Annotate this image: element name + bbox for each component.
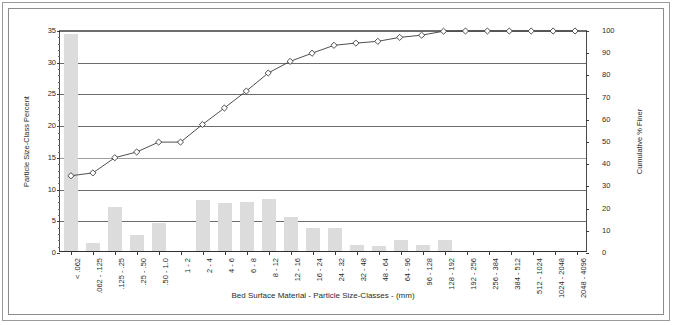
- y-axis-left-tick-label: 20: [48, 122, 56, 130]
- y-axis-right-tick-label: 100: [602, 27, 615, 35]
- y-axis-left-tick-label: 25: [48, 91, 56, 99]
- y-tick-minor: [58, 234, 60, 235]
- x-axis-tick-label: .062 - .125: [96, 258, 104, 294]
- y-tick-minor: [58, 171, 60, 172]
- x-tick: [335, 251, 336, 255]
- y-axis-right-tick-label: 50: [602, 138, 610, 146]
- y-tick-major: [57, 158, 60, 159]
- x-tick: [225, 251, 226, 255]
- y-axis-right-tick-label: 60: [602, 116, 610, 124]
- x-axis-tick-label: 192 - 256: [470, 258, 478, 290]
- x-tick: [401, 251, 402, 255]
- y-tick-minor: [58, 107, 60, 108]
- x-axis-tick-label: 12 - 16: [294, 258, 302, 281]
- y-tick-minor: [58, 56, 60, 57]
- y-tick-major: [57, 221, 60, 222]
- y-tick-major: [57, 190, 60, 191]
- x-axis-tick-label: 512 - 1024: [536, 258, 544, 294]
- y2-tick-major: [586, 75, 589, 76]
- y-tick-minor: [58, 120, 60, 121]
- x-tick: [93, 251, 94, 255]
- x-axis-tick-label: 8 - 12: [272, 258, 280, 277]
- y-axis-right-tick-label: 90: [602, 49, 610, 57]
- y2-tick-major: [586, 142, 589, 143]
- y2-tick-major: [586, 253, 589, 254]
- y-axis-right-tick-label: 80: [602, 72, 610, 80]
- cumulative-line-markers: [68, 28, 578, 179]
- x-tick: [181, 251, 182, 255]
- line-marker: [90, 170, 96, 176]
- y-tick-minor: [58, 114, 60, 115]
- y-tick-minor: [58, 215, 60, 216]
- y-tick-major: [57, 253, 60, 254]
- x-tick: [247, 251, 248, 255]
- x-axis-tick-label: .50 - 1.0: [162, 258, 170, 286]
- x-axis-tick-label: 256 - 384: [492, 258, 500, 290]
- x-axis-tick-label: 4 - 6: [228, 258, 236, 273]
- y-axis-left-title-text: Particle Size-Class Percent: [22, 96, 31, 187]
- y-axis-left-tick-label: 10: [48, 186, 56, 194]
- x-tick: [533, 251, 534, 255]
- x-tick: [555, 251, 556, 255]
- y2-tick-major: [586, 231, 589, 232]
- x-axis-tick-label: 24 - 32: [338, 258, 346, 281]
- x-axis-tick-label: 2 - 4: [206, 258, 214, 273]
- y-tick-minor: [58, 183, 60, 184]
- y-tick-minor: [58, 133, 60, 134]
- y-axis-right-tick-label: 70: [602, 94, 610, 102]
- y-tick-minor: [58, 145, 60, 146]
- x-tick: [313, 251, 314, 255]
- y2-tick-major: [586, 120, 589, 121]
- y-tick-minor: [58, 177, 60, 178]
- x-axis-tick-label: .25 - .50: [140, 258, 148, 286]
- line-marker: [353, 40, 359, 46]
- y-tick-minor: [58, 240, 60, 241]
- y-tick-minor: [58, 139, 60, 140]
- y-axis-right-tick-label: 0: [602, 249, 606, 257]
- y-axis-right-tick-label: 40: [602, 160, 610, 168]
- x-tick: [489, 251, 490, 255]
- cumulative-line-series: [60, 31, 586, 251]
- y-tick-major: [57, 31, 60, 32]
- y2-tick-major: [586, 209, 589, 210]
- y-tick-minor: [58, 196, 60, 197]
- y-tick-minor: [58, 228, 60, 229]
- y-tick-minor: [58, 88, 60, 89]
- y-tick-minor: [58, 50, 60, 51]
- x-tick: [511, 251, 512, 255]
- y-tick-minor: [58, 247, 60, 248]
- y-axis-right-tick-label: 10: [602, 227, 610, 235]
- y-tick-minor: [58, 37, 60, 38]
- x-axis-tick-label: 6 - 8: [250, 258, 258, 273]
- y-tick-minor: [58, 202, 60, 203]
- chart-figure: Particle Size-Class Percent Cumulative %…: [0, 0, 674, 325]
- x-tick: [137, 251, 138, 255]
- y-tick-major: [57, 126, 60, 127]
- x-axis-title: Bed Surface Material - Particle Size-Cla…: [59, 291, 587, 300]
- y-axis-left-tick-label: 35: [48, 27, 56, 35]
- line-marker: [331, 42, 337, 48]
- line-marker: [134, 149, 140, 155]
- line-marker: [309, 50, 315, 56]
- y-tick-minor: [58, 209, 60, 210]
- line-marker: [112, 155, 118, 161]
- x-tick: [357, 251, 358, 255]
- line-marker: [375, 38, 381, 44]
- y2-tick-major: [586, 31, 589, 32]
- x-tick: [445, 251, 446, 255]
- x-axis-tick-label: 48 - 64: [382, 258, 390, 281]
- x-tick: [115, 251, 116, 255]
- y-axis-right-tick-label: 20: [602, 205, 610, 213]
- x-tick: [467, 251, 468, 255]
- y-tick-minor: [58, 69, 60, 70]
- line-marker: [68, 173, 74, 179]
- y2-tick-major: [586, 164, 589, 165]
- y-axis-left-tick-label: 15: [48, 154, 56, 162]
- x-axis-tick-label: 384 - 512: [514, 258, 522, 290]
- x-axis-tick-label: 16 - 24: [316, 258, 324, 281]
- x-axis-tick-label: 32 - 48: [360, 258, 368, 281]
- plot-area: 05101520253035 0102030405060708090100 < …: [59, 30, 587, 252]
- y-tick-minor: [58, 152, 60, 153]
- x-tick: [159, 251, 160, 255]
- x-tick: [71, 251, 72, 255]
